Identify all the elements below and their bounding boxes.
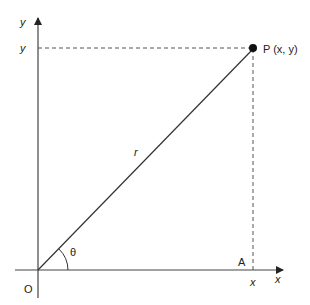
point-p-label: P (x, y) (263, 43, 298, 55)
angle-label: θ (70, 246, 76, 258)
x-axis-label: x (274, 273, 281, 285)
origin-label: O (24, 283, 33, 295)
radius-label: r (134, 146, 139, 158)
y-axis-label: y (19, 16, 27, 28)
point-a-label: A (238, 256, 246, 268)
y-coordinate-label: y (19, 42, 27, 54)
point-p (249, 44, 257, 52)
radius-line (38, 49, 253, 270)
polar-coordinates-diagram: y y P (x, y) r θ O A x x (0, 0, 310, 305)
angle-arc (59, 249, 68, 270)
x-coordinate-label: x (249, 276, 256, 288)
